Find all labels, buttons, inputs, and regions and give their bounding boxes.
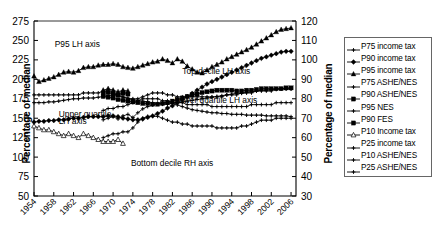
legend-item-label: P95 NES <box>361 103 394 112</box>
y-tick-label-right: 40 <box>301 171 313 182</box>
data-series <box>101 114 293 139</box>
x-tick-label: 1962 <box>57 196 78 217</box>
legend-item[interactable]: P95 income tax <box>346 64 429 76</box>
x-tick-label: 2006 <box>275 196 296 217</box>
legend-item-label: P10 ASHE/NES <box>361 151 417 160</box>
legend-marker-icon <box>346 163 361 173</box>
legend-item-label: P10 Income tax <box>361 127 416 136</box>
legend-item-label: P25 income tax <box>361 139 415 148</box>
chart-legend: P75 income taxP90 income taxP95 income t… <box>344 37 432 177</box>
legend-marker-icon <box>346 102 361 112</box>
chart-annotation: LH axis <box>59 116 87 126</box>
x-tick-label: 2002 <box>255 196 276 217</box>
legend-item[interactable]: P10 Income tax <box>346 125 429 137</box>
legend-item-label: P90 ASHE/NES <box>361 90 417 99</box>
legend-marker-icon <box>346 53 361 63</box>
y-tick-label-left: 75 <box>18 171 30 182</box>
x-tick-label: 1958 <box>38 196 59 217</box>
chart-figure: Percentage of median Percentage of media… <box>0 0 434 248</box>
legend-marker-icon <box>346 90 361 100</box>
legend-marker-icon <box>346 65 361 75</box>
y-tick-label-left: 225 <box>12 54 29 65</box>
chart-annotation: P95 LH axis <box>55 39 100 49</box>
legend-item[interactable]: P75 income tax <box>346 40 429 52</box>
legend-marker-icon <box>346 139 361 149</box>
chart-annotation: Lower quartile LH axis <box>174 95 257 105</box>
legend-item[interactable]: P90 ASHE/NES <box>346 89 429 101</box>
x-tick-label: 1966 <box>77 196 98 217</box>
y-tick-label-right: 50 <box>301 152 313 163</box>
y-tick-label-left: 175 <box>12 93 29 104</box>
y-tick-label-right: 30 <box>301 191 313 202</box>
legend-item[interactable]: P10 ASHE/NES <box>346 150 429 162</box>
y-tick-label-left: 200 <box>12 74 29 85</box>
legend-item[interactable]: P95 NES <box>346 101 429 113</box>
legend-marker-icon <box>346 126 361 136</box>
chart-annotation: Bottom decile RH axis <box>131 158 213 168</box>
y-tick-label-left: 275 <box>12 16 29 27</box>
y-tick-label-left: 150 <box>12 113 29 124</box>
y-tick-label-left: 100 <box>12 152 29 163</box>
legend-item[interactable]: P25 income tax <box>346 138 429 150</box>
y-tick-label-right: 90 <box>301 74 313 85</box>
x-tick-label: 1974 <box>117 196 138 217</box>
x-tick-label: 1998 <box>235 196 256 217</box>
x-tick-label: 1970 <box>97 196 118 217</box>
x-tick-label: 1994 <box>216 196 237 217</box>
chart-annotation: Top decile LH axis <box>182 66 250 76</box>
y-tick-label-right: 70 <box>301 113 313 124</box>
y-tick-label-right: 60 <box>301 132 313 143</box>
legend-item-label: P25 ASHE/NES <box>361 163 417 172</box>
legend-marker-icon <box>346 41 361 51</box>
y-tick-label-right: 110 <box>301 35 317 46</box>
legend-marker-icon <box>346 151 361 161</box>
legend-item[interactable]: P25 ASHE/NES <box>346 162 429 174</box>
y-tick-label-left: 125 <box>12 132 29 143</box>
y-tick-label-right: 80 <box>301 93 313 104</box>
y-tick-label-left: 250 <box>12 35 29 46</box>
legend-item[interactable]: P75 ASHE/NES <box>346 77 429 89</box>
legend-item-label: P90 FES <box>361 115 393 124</box>
legend-item-label: P75 ASHE/NES <box>361 78 417 87</box>
x-tick-label: 1990 <box>196 196 217 217</box>
y-tick-label-right: 120 <box>301 16 318 27</box>
legend-item[interactable]: P90 income tax <box>346 52 429 64</box>
x-tick-label: 1978 <box>136 196 157 217</box>
y-tick-label-right: 100 <box>301 54 318 65</box>
x-tick-label: 1982 <box>156 196 177 217</box>
legend-marker-icon <box>346 78 361 88</box>
legend-item-label: P95 income tax <box>361 66 415 75</box>
legend-item[interactable]: P90 FES <box>346 113 429 125</box>
data-series <box>32 25 294 83</box>
legend-item-label: P90 income tax <box>361 54 415 63</box>
legend-item-label: P75 income tax <box>361 42 415 51</box>
legend-marker-icon <box>346 114 361 124</box>
x-tick-label: 1986 <box>176 196 197 217</box>
